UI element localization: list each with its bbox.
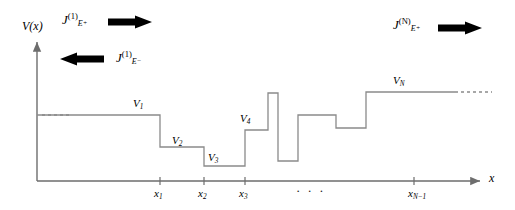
incident-current-left-label: J(1)E+	[62, 12, 87, 28]
potential-staircase-path	[37, 92, 455, 166]
axes-group	[37, 42, 480, 181]
y-axis-label: V(x)	[22, 20, 43, 32]
x-tick-label: xN−1	[408, 188, 426, 201]
potential-level-label: V3	[208, 152, 218, 165]
potential-level-label: V4	[240, 113, 250, 126]
x-tick-label: x2	[198, 188, 207, 201]
asymptote-dashed-lines	[42, 92, 492, 115]
potential-level-label: V1	[133, 98, 143, 111]
potential-level-label: VN	[393, 75, 405, 88]
x-tick-label: x1	[154, 188, 163, 201]
reflected-current-left-label: J(1)E−	[116, 50, 141, 66]
potential-step-figure: V(x) x x1x2x3xN−1 V1V2V3V4VN J(1)E+J(1)E…	[0, 0, 515, 210]
incident-current-left-arrow	[108, 16, 152, 29]
transmitted-current-right-arrow	[438, 22, 482, 35]
potential-level-label: V2	[172, 135, 182, 148]
potential-profile	[37, 92, 455, 166]
transmitted-current-right-label: J(N)E+	[393, 17, 420, 33]
figure-canvas	[0, 0, 515, 210]
reflected-current-left-arrow	[60, 53, 104, 66]
x-tick-label: x3	[239, 188, 248, 201]
x-axis-ellipsis: · · ·	[296, 183, 326, 199]
x-axis-label: x	[489, 172, 494, 184]
